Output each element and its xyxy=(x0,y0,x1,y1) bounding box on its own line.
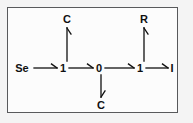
edge-start-to-s1 xyxy=(34,64,57,68)
node-start: Se xyxy=(15,63,28,74)
edge-s0-to-s2 xyxy=(105,64,134,68)
node-down-c: C xyxy=(97,100,105,111)
edge-s0-to-down1 xyxy=(101,75,105,97)
node-s1: 1 xyxy=(60,63,66,74)
node-s2: 1 xyxy=(137,63,143,74)
edge-s2-to-up2 xyxy=(144,28,148,61)
node-end: I xyxy=(170,63,173,74)
edge-s2-to-end xyxy=(146,64,168,68)
node-s0: 0 xyxy=(96,63,102,74)
edge-s1-to-s0 xyxy=(69,64,93,68)
node-up-c: C xyxy=(63,14,71,25)
diagram-figure: Se 1 0 1 I C R C xyxy=(0,0,193,123)
node-up-r: R xyxy=(140,14,148,25)
edge-s1-to-up1 xyxy=(67,28,71,61)
